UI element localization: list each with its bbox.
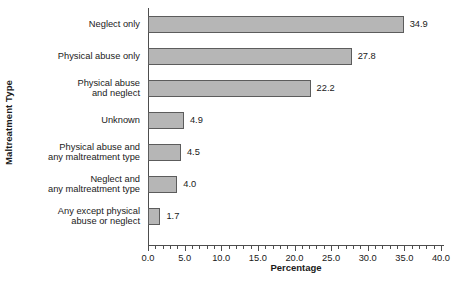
x-axis-major-tick bbox=[258, 246, 259, 251]
x-axis-minor-tick bbox=[434, 246, 435, 249]
x-axis-minor-tick bbox=[302, 246, 303, 249]
x-axis-major-tick bbox=[404, 246, 405, 251]
x-axis-minor-tick bbox=[419, 246, 420, 249]
x-axis-minor-tick bbox=[316, 246, 317, 249]
category-label: Unknown bbox=[16, 115, 140, 126]
bar bbox=[148, 80, 311, 97]
category-label-line: and neglect bbox=[16, 88, 140, 99]
bar-value-label: 4.5 bbox=[187, 144, 200, 161]
bar bbox=[148, 208, 160, 225]
bar bbox=[148, 112, 184, 129]
x-axis-minor-tick bbox=[177, 246, 178, 249]
x-axis-minor-tick bbox=[412, 246, 413, 249]
bar-value-label: 4.9 bbox=[190, 112, 203, 129]
bar-value-label: 22.2 bbox=[317, 80, 335, 97]
x-axis-minor-tick bbox=[155, 246, 156, 249]
x-axis-minor-tick bbox=[309, 246, 310, 249]
x-axis-title: Percentage bbox=[148, 262, 444, 273]
bar bbox=[148, 176, 177, 193]
x-axis-minor-tick bbox=[207, 246, 208, 249]
bar-value-label: 27.8 bbox=[358, 48, 376, 65]
x-axis-major-tick bbox=[185, 246, 186, 251]
x-axis-major-tick bbox=[441, 246, 442, 251]
x-axis-minor-tick bbox=[192, 246, 193, 249]
bar bbox=[148, 16, 404, 33]
x-axis-minor-tick bbox=[390, 246, 391, 249]
bar-value-label: 1.7 bbox=[166, 208, 179, 225]
category-label-line: Any except physical bbox=[16, 206, 140, 217]
category-label: Physical abuse andany maltreatment type bbox=[16, 142, 140, 163]
x-axis-major-tick bbox=[331, 246, 332, 251]
category-label: Physical abuse only bbox=[16, 51, 140, 62]
x-axis-minor-tick bbox=[214, 246, 215, 249]
x-axis-minor-tick bbox=[382, 246, 383, 249]
y-axis-title-text: Maltreatment Type bbox=[3, 80, 14, 165]
x-axis-minor-tick bbox=[324, 246, 325, 249]
category-label: Physical abuseand neglect bbox=[16, 78, 140, 99]
x-axis-major-tick bbox=[368, 246, 369, 251]
plot-area: 34.927.822.24.94.54.01.70.05.010.015.020… bbox=[148, 8, 448, 245]
bar-value-label: 34.9 bbox=[410, 16, 428, 33]
bar-chart-figure: Maltreatment Type Neglect onlyPhysical a… bbox=[0, 0, 467, 299]
x-axis-minor-tick bbox=[170, 246, 171, 249]
category-label-line: Unknown bbox=[16, 115, 140, 126]
x-axis-minor-tick bbox=[273, 246, 274, 249]
x-axis-minor-tick bbox=[426, 246, 427, 249]
category-label: Neglect andany maltreatment type bbox=[16, 174, 140, 195]
category-label-line: any maltreatment type bbox=[16, 152, 140, 163]
x-axis-minor-tick bbox=[338, 246, 339, 249]
x-axis-minor-tick bbox=[236, 246, 237, 249]
x-axis-major-tick bbox=[221, 246, 222, 251]
x-axis-minor-tick bbox=[397, 246, 398, 249]
x-axis-minor-tick bbox=[243, 246, 244, 249]
category-label-column: Neglect onlyPhysical abuse onlyPhysical … bbox=[16, 8, 144, 245]
y-axis-title: Maltreatment Type bbox=[0, 0, 16, 245]
bar bbox=[148, 48, 352, 65]
bar-value-label: 4.0 bbox=[183, 176, 196, 193]
category-label-line: Neglect only bbox=[16, 19, 140, 30]
x-axis-minor-tick bbox=[346, 246, 347, 249]
x-axis-major-tick bbox=[295, 246, 296, 251]
category-label: Any except physicalabuse or neglect bbox=[16, 206, 140, 227]
x-axis-minor-tick bbox=[251, 246, 252, 249]
x-axis-minor-tick bbox=[199, 246, 200, 249]
category-label: Neglect only bbox=[16, 19, 140, 30]
category-label-line: Physical abuse bbox=[16, 78, 140, 89]
x-axis-minor-tick bbox=[353, 246, 354, 249]
x-axis-minor-tick bbox=[375, 246, 376, 249]
category-label-line: Neglect and bbox=[16, 174, 140, 185]
x-axis-minor-tick bbox=[265, 246, 266, 249]
category-label-line: Physical abuse only bbox=[16, 51, 140, 62]
category-label-line: Physical abuse and bbox=[16, 142, 140, 153]
x-axis-minor-tick bbox=[229, 246, 230, 249]
category-label-line: any maltreatment type bbox=[16, 184, 140, 195]
category-label-line: abuse or neglect bbox=[16, 216, 140, 227]
x-axis-major-tick bbox=[148, 246, 149, 251]
figure-caption bbox=[18, 291, 448, 299]
x-axis-minor-tick bbox=[287, 246, 288, 249]
x-axis-minor-tick bbox=[280, 246, 281, 249]
bar bbox=[148, 144, 181, 161]
x-axis-minor-tick bbox=[163, 246, 164, 249]
x-axis-minor-tick bbox=[360, 246, 361, 249]
